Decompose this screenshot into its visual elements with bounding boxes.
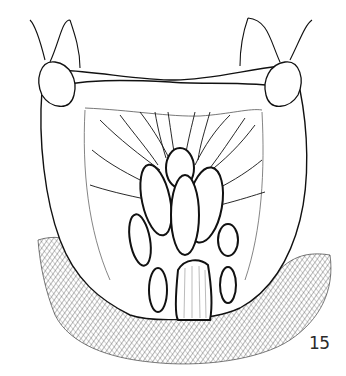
anatomical-drawing — [0, 0, 346, 376]
illustration-canvas: 15 — [0, 0, 346, 376]
left-lobe — [30, 20, 80, 106]
figure-number: 15 — [309, 333, 330, 353]
